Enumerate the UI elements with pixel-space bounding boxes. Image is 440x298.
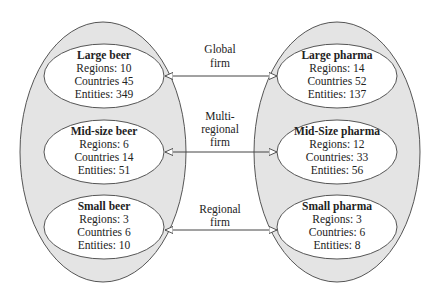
node-title: Large pharma: [301, 49, 372, 62]
node-countries: Countries 45: [74, 75, 133, 87]
diagram-canvas: Large beer Regions: 10 Countries 45 Enti…: [0, 0, 440, 298]
label-multi-regional-firm: Multi- regional firm: [201, 110, 239, 148]
node-countries: Countries 6: [77, 226, 131, 238]
node-countries: Countries 52: [307, 75, 366, 87]
node-large-pharma: Large pharma Regions: 14 Countries 52 En…: [277, 44, 397, 108]
node-title: Mid-size beer: [71, 125, 138, 137]
node-entities: Entities: 349: [75, 88, 134, 100]
node-entities: Entities: 10: [78, 239, 131, 251]
link-label-line: firm: [210, 136, 230, 148]
node-entities: Entities: 51: [78, 164, 131, 176]
node-regions: Regions: 14: [309, 62, 365, 75]
link-label-line: firm: [210, 57, 230, 69]
link-label-line: Regional: [199, 203, 241, 216]
node-entities: Entities: 137: [308, 88, 367, 100]
label-global-firm: Global firm: [204, 43, 235, 69]
label-regional-firm: Regional firm: [199, 203, 241, 228]
link-label-line: Global: [204, 43, 235, 55]
node-regions: Regions: 12: [309, 138, 365, 151]
node-small-beer: Small beer Regions: 3 Countries 6 Entiti…: [44, 195, 164, 259]
node-title: Small beer: [78, 200, 131, 212]
node-mid-size-pharma: Mid-Size pharma Regions: 12 Countries: 3…: [277, 120, 397, 184]
node-regions: Regions: 3: [312, 213, 362, 226]
node-countries: Countries: 6: [309, 226, 366, 238]
node-countries: Countries: 33: [306, 151, 369, 163]
node-title: Mid-Size pharma: [294, 125, 380, 138]
link-label-line: regional: [201, 123, 239, 136]
node-countries: Countries 14: [74, 151, 133, 163]
node-mid-size-beer: Mid-size beer Regions: 6 Countries 14 En…: [44, 120, 164, 184]
link-label-line: Multi-: [205, 110, 235, 122]
link-label-line: firm: [210, 216, 230, 228]
node-entities: Entities: 56: [311, 164, 364, 176]
node-large-beer: Large beer Regions: 10 Countries 45 Enti…: [44, 44, 164, 108]
node-title: Large beer: [77, 49, 131, 62]
node-regions: Regions: 3: [79, 213, 129, 226]
node-title: Small pharma: [302, 200, 372, 213]
node-regions: Regions: 6: [79, 138, 129, 151]
node-regions: Regions: 10: [76, 62, 132, 75]
node-entities: Entities: 8: [314, 239, 361, 251]
node-small-pharma: Small pharma Regions: 3 Countries: 6 Ent…: [277, 195, 397, 259]
